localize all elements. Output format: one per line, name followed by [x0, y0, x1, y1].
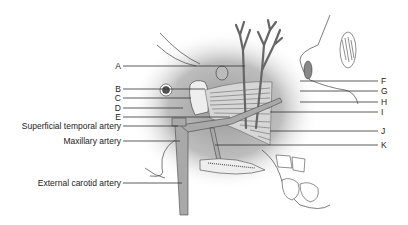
- label-superficial-temporal-artery: Superficial temporal artery: [22, 121, 121, 131]
- zygomatic-section: [304, 61, 312, 79]
- temporal-section: [216, 66, 228, 80]
- teeth: [276, 155, 318, 202]
- label-f: F: [381, 76, 386, 86]
- label-c: C: [115, 93, 121, 103]
- label-i: I: [381, 107, 383, 117]
- label-a: A: [115, 61, 121, 71]
- orbit-detail: [340, 32, 356, 68]
- superficial-temporal-shape: [172, 118, 186, 126]
- label-g: G: [381, 86, 388, 96]
- label-maxillary-artery: Maxillary artery: [63, 136, 121, 146]
- label-j: J: [381, 126, 385, 136]
- label-h: H: [381, 97, 387, 107]
- label-k: K: [381, 140, 387, 150]
- label-external-carotid-artery: External carotid artery: [38, 178, 121, 188]
- anatomy-illustration: [0, 0, 408, 225]
